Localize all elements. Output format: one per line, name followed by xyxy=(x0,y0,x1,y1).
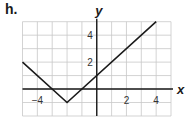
x-axis-label: x xyxy=(176,82,185,97)
graph-plot: −42424 x y xyxy=(0,0,191,122)
x-tick-label: −4 xyxy=(32,95,44,106)
y-tick-label: 2 xyxy=(87,57,93,68)
tick-labels: −42424 xyxy=(32,30,160,106)
x-tick-label: 2 xyxy=(124,95,130,106)
axes xyxy=(23,19,174,116)
y-axis-label: y xyxy=(94,3,103,18)
x-tick-label: 4 xyxy=(153,95,159,106)
y-tick-label: 4 xyxy=(87,30,93,41)
